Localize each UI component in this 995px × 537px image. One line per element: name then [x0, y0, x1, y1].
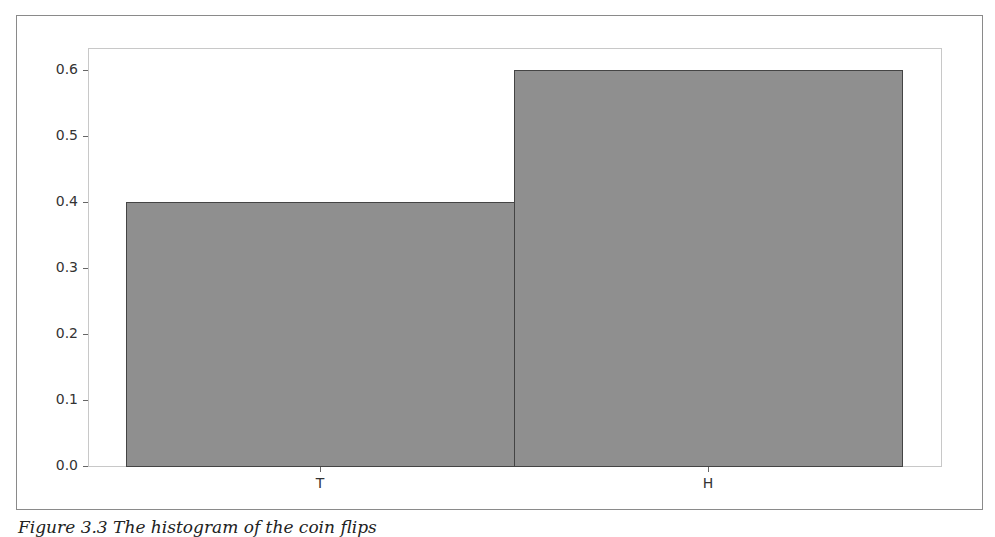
y-tick-label: 0.3: [56, 259, 78, 275]
bar-h: [514, 70, 903, 467]
y-tick-mark: [83, 136, 88, 137]
bar-t: [126, 202, 515, 467]
y-tick-mark: [83, 202, 88, 203]
y-tick-mark: [83, 70, 88, 71]
y-tick-mark: [83, 466, 88, 467]
figure-caption: Figure 3.3 The histogram of the coin fli…: [18, 517, 377, 537]
x-tick-mark: [320, 467, 321, 472]
x-tick-mark: [708, 467, 709, 472]
y-tick-mark: [83, 400, 88, 401]
y-tick-label: 0.2: [56, 325, 78, 341]
y-tick-label: 0.1: [56, 391, 78, 407]
y-tick-mark: [83, 268, 88, 269]
y-tick-label: 0.4: [56, 193, 78, 209]
y-tick-label: 0.6: [56, 61, 78, 77]
x-tick-label: T: [310, 475, 330, 491]
x-tick-label: H: [698, 475, 718, 491]
y-tick-label: 0.0: [56, 457, 78, 473]
y-tick-label: 0.5: [56, 127, 78, 143]
y-tick-mark: [83, 334, 88, 335]
